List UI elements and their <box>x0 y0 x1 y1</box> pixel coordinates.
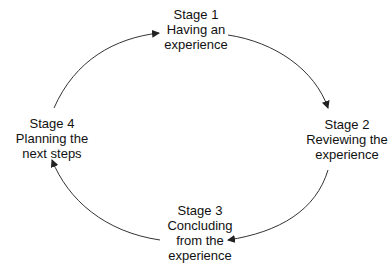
arrow-stage3-to-stage4 <box>52 160 160 240</box>
stage-2-line-2: experience <box>306 147 388 162</box>
stage-1-label: Stage 1 Having an experience <box>164 7 228 52</box>
stage-3-number: Stage 3 <box>167 203 232 218</box>
stage-1-line-1: Having an <box>164 22 228 37</box>
stage-2-label: Stage 2 Reviewing the experience <box>306 117 388 162</box>
stage-3-line-1: Concluding <box>167 218 232 233</box>
stage-3-line-3: experience <box>167 248 232 263</box>
stage-4-line-1: Planning the <box>16 131 88 146</box>
stage-4-label: Stage 4 Planning the next steps <box>16 116 88 161</box>
arrow-stage1-to-stage2 <box>228 35 328 108</box>
stage-4-number: Stage 4 <box>16 116 88 131</box>
arrow-stage2-to-stage3 <box>228 170 328 240</box>
stage-3-label: Stage 3 Concluding from the experience <box>167 203 232 263</box>
stage-2-number: Stage 2 <box>306 117 388 132</box>
stage-1-line-2: experience <box>164 37 228 52</box>
stage-4-line-2: next steps <box>16 146 88 161</box>
stage-2-line-1: Reviewing the <box>306 132 388 147</box>
stage-1-number: Stage 1 <box>164 7 228 22</box>
arrow-stage4-to-stage1 <box>54 33 159 108</box>
stage-3-line-2: from the <box>167 233 232 248</box>
